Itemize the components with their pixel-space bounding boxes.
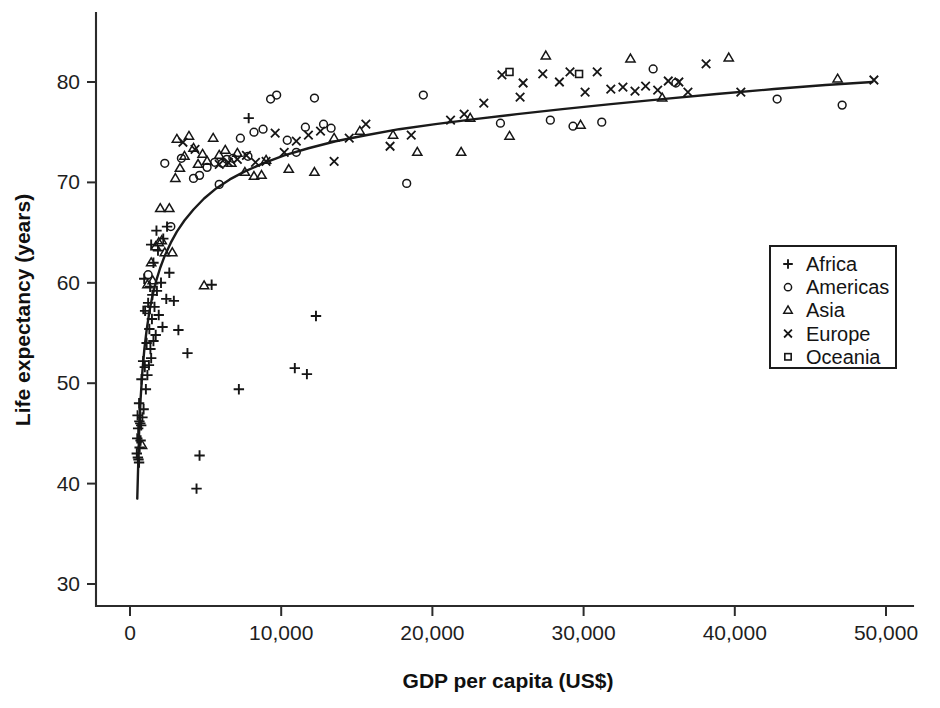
marker-triangle xyxy=(626,54,635,62)
marker-plus xyxy=(151,225,161,235)
marker-circle xyxy=(403,180,411,188)
marker-triangle xyxy=(175,164,184,172)
marker-plus xyxy=(164,268,174,278)
marker-triangle xyxy=(310,168,319,176)
marker-triangle xyxy=(284,165,293,173)
marker-plus xyxy=(243,113,253,123)
marker-triangle xyxy=(184,131,193,139)
legend-item-label: Oceania xyxy=(806,346,881,368)
marker-circle xyxy=(311,94,319,102)
marker-square xyxy=(506,69,513,76)
marker-cross xyxy=(631,87,640,96)
marker-plus xyxy=(311,311,321,321)
x-tick-label: 50,000 xyxy=(854,621,918,644)
x-tick-label: 0 xyxy=(124,621,136,644)
x-tick-label: 20,000 xyxy=(400,621,464,644)
marker-triangle xyxy=(165,204,174,212)
marker-cross xyxy=(702,60,711,69)
marker-cross xyxy=(271,129,280,138)
legend-item-label: Americas xyxy=(806,276,889,298)
marker-cross xyxy=(519,79,528,88)
marker-cross xyxy=(251,158,260,167)
marker-cross xyxy=(555,78,564,87)
marker-cross xyxy=(641,82,650,91)
marker-triangle xyxy=(724,53,733,61)
marker-plus xyxy=(151,330,161,340)
marker-triangle xyxy=(209,133,218,141)
marker-circle xyxy=(327,124,335,132)
marker-triangle xyxy=(156,204,165,212)
legend-item-label: Europe xyxy=(806,323,871,345)
y-tick-label: 30 xyxy=(57,572,80,595)
marker-triangle xyxy=(330,133,339,141)
regression-curve xyxy=(137,82,872,499)
series-europe xyxy=(179,60,878,169)
marker-circle xyxy=(773,95,781,103)
series-oceania xyxy=(143,69,582,314)
marker-circle xyxy=(273,91,281,99)
marker-cross xyxy=(292,137,301,146)
marker-plus xyxy=(161,294,171,304)
marker-cross xyxy=(480,99,489,108)
marker-cross xyxy=(386,142,395,151)
marker-plus xyxy=(290,363,300,373)
marker-circle xyxy=(144,271,152,279)
marker-triangle xyxy=(221,145,230,153)
marker-circle xyxy=(250,128,258,136)
marker-cross xyxy=(407,131,416,140)
marker-plus xyxy=(234,384,244,394)
marker-triangle xyxy=(413,147,422,155)
scatter-plot: 304050607080010,00020,00030,00040,00050,… xyxy=(0,0,940,708)
marker-cross xyxy=(870,76,879,85)
marker-cross xyxy=(539,70,548,79)
marker-plus xyxy=(157,322,167,332)
marker-cross xyxy=(684,88,693,97)
y-tick-label: 60 xyxy=(57,271,80,294)
fit-curve xyxy=(137,82,872,499)
y-tick-label: 70 xyxy=(57,170,80,193)
marker-triangle xyxy=(541,51,550,59)
marker-cross xyxy=(330,157,339,166)
marker-cross xyxy=(304,131,313,140)
marker-plus xyxy=(169,296,179,306)
marker-cross xyxy=(607,85,616,94)
marker-triangle xyxy=(171,174,180,182)
marker-plus xyxy=(191,483,201,493)
y-tick-label: 50 xyxy=(57,371,80,394)
marker-circle xyxy=(236,134,244,142)
marker-circle xyxy=(497,119,505,127)
series-americas xyxy=(144,65,846,279)
marker-cross xyxy=(619,83,628,92)
marker-cross xyxy=(516,93,525,102)
marker-triangle xyxy=(833,74,842,82)
chart-figure: 304050607080010,00020,00030,00040,00050,… xyxy=(0,0,940,708)
marker-circle xyxy=(259,125,267,133)
x-tick-label: 40,000 xyxy=(703,621,767,644)
marker-circle xyxy=(598,118,606,126)
x-tick-label: 30,000 xyxy=(551,621,615,644)
legend[interactable]: AfricaAmericasAsiaEuropeOceania xyxy=(770,246,896,368)
marker-cross xyxy=(566,68,575,77)
marker-circle xyxy=(161,159,169,167)
marker-circle xyxy=(419,91,427,99)
marker-triangle xyxy=(505,131,514,139)
marker-plus xyxy=(302,369,312,379)
marker-cross xyxy=(581,88,590,97)
marker-triangle xyxy=(576,120,585,128)
x-tick-label: 10,000 xyxy=(249,621,313,644)
marker-triangle xyxy=(193,159,202,167)
marker-cross xyxy=(593,68,602,77)
marker-cross xyxy=(362,120,371,129)
marker-circle xyxy=(838,101,846,109)
y-tick-label: 40 xyxy=(57,472,80,495)
marker-plus xyxy=(194,450,204,460)
marker-circle xyxy=(320,120,328,128)
legend-item-label: Asia xyxy=(806,299,846,321)
marker-circle xyxy=(301,123,309,131)
y-tick-label: 80 xyxy=(57,70,80,93)
y-axis-title: Life expectancy (years) xyxy=(11,194,34,426)
marker-plus xyxy=(173,325,183,335)
marker-circle xyxy=(283,136,291,144)
marker-triangle xyxy=(457,147,466,155)
marker-triangle xyxy=(257,171,266,179)
